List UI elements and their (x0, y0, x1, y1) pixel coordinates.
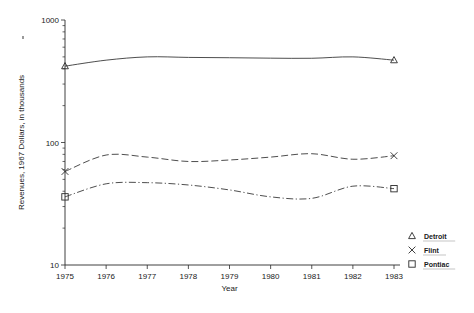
y-tick-label: 1000 (41, 16, 59, 25)
legend-marker-triangle (409, 232, 416, 238)
legend-label-flint: Flint (424, 247, 439, 254)
series-line-pontiac (65, 182, 394, 199)
x-tick-label: 1983 (385, 272, 403, 281)
scan-speck (22, 36, 24, 39)
x-tick-label: 1981 (303, 272, 321, 281)
y-tick-label: 100 (46, 139, 60, 148)
legend-label-detroit: Detroit (424, 233, 447, 240)
y-tick-label: 10 (50, 261, 59, 270)
x-tick-label: 1977 (138, 272, 156, 281)
x-tick-label: 1975 (56, 272, 74, 281)
revenues-line-chart: 1000100101975197619771978197919801981198… (0, 0, 474, 313)
x-tick-label: 1980 (262, 272, 280, 281)
x-axis-title: Year (221, 284, 238, 293)
x-tick-label: 1978 (179, 272, 197, 281)
y-axis-title: Revenues, 1967 Dollars, in thousands (17, 75, 26, 210)
legend-marker-square (409, 261, 415, 267)
chart-page: 1000100101975197619771978197919801981198… (0, 0, 474, 313)
series-line-flint (65, 154, 394, 172)
x-tick-label: 1982 (344, 272, 362, 281)
series-line-detroit (65, 57, 394, 66)
legend-label-pontiac: Pontiac (424, 261, 449, 268)
x-tick-label: 1976 (97, 272, 115, 281)
x-tick-label: 1979 (221, 272, 239, 281)
